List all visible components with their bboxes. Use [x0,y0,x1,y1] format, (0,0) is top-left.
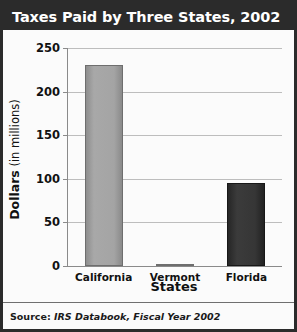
plot-frame: 050100150200250CaliforniaVermontFlorida [67,48,282,267]
bar-vermont [156,264,194,266]
y-axis-tick-label: 0 [52,259,60,273]
chart-plot-area: Dollars (in millions) 050100150200250Cal… [3,30,294,302]
y-axis-tick [63,135,68,136]
gridline [68,48,282,49]
x-axis-title: States [67,279,281,294]
chart-title-bar: Taxes Paid by Three States, 2002 [3,3,294,30]
y-axis-tick-label: 150 [36,128,60,142]
y-axis-tick [63,266,68,267]
y-axis-tick-label: 200 [36,85,60,99]
source-footer: Source: IRS Databook, Fiscal Year 2002 [3,302,294,329]
y-axis-tick-label: 100 [36,172,60,186]
y-axis-title-wrapper: Dollars (in millions) [3,60,25,260]
y-axis-tick-label: 50 [44,215,60,229]
source-label: Source: [10,311,51,322]
source-text: Source: IRS Databook, Fiscal Year 2002 [10,311,220,322]
source-value: IRS Databook, Fiscal Year 2002 [54,311,220,322]
chart-figure: Taxes Paid by Three States, 2002 Dollars… [0,0,297,332]
y-axis-tick [63,179,68,180]
y-axis-tick [63,222,68,223]
bar-california [85,65,123,266]
y-axis-title-strong: Dollars [7,170,22,220]
y-axis-tick [63,92,68,93]
y-axis-tick [63,48,68,49]
bar-florida [227,183,265,266]
y-axis-tick-label: 250 [36,41,60,55]
y-axis-title-rest: (in millions) [8,99,22,170]
y-axis-title: Dollars (in millions) [7,60,22,260]
page-title: Taxes Paid by Three States, 2002 [12,9,280,25]
